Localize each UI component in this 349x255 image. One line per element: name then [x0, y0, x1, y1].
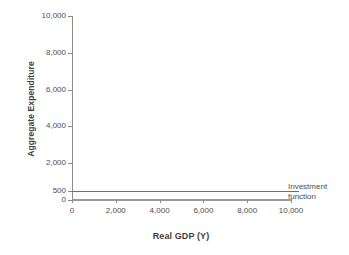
y-tick-label: 2,000	[46, 159, 66, 167]
x-tick-mark	[72, 199, 73, 203]
y-tick-mark	[68, 90, 72, 91]
y-tick-mark	[68, 126, 72, 127]
x-tick-label: 4,000	[150, 207, 170, 215]
x-tick-label: 0	[70, 207, 74, 215]
x-tick-mark	[116, 199, 117, 203]
y-tick-label: 500	[53, 187, 66, 195]
x-tick-label: 2,000	[106, 207, 126, 215]
plot-area: 05002,0004,0006,0008,00010,000 02,0004,0…	[72, 16, 291, 200]
y-axis-line	[72, 16, 73, 200]
y-tick-mark	[68, 16, 72, 17]
y-tick-mark	[68, 53, 72, 54]
x-tick-mark	[203, 199, 204, 203]
y-tick-mark	[68, 163, 72, 164]
x-axis-line	[72, 199, 291, 201]
investment-function-series-line	[72, 191, 299, 192]
y-tick-label: 0	[62, 196, 66, 204]
y-tick-label: 10,000	[42, 12, 66, 20]
x-tick-label: 6,000	[193, 207, 213, 215]
x-tick-mark	[247, 199, 248, 203]
investment-function-chart: Aggregate Expenditure 05002,0004,0006,00…	[0, 0, 349, 255]
y-tick-label: 8,000	[46, 49, 66, 57]
x-tick-label: 10,000	[279, 207, 303, 215]
y-tick-label: 6,000	[46, 86, 66, 94]
x-tick-mark	[160, 199, 161, 203]
x-axis-title: Real GDP (Y)	[72, 231, 290, 241]
investment-function-label-line2: function	[288, 192, 327, 202]
y-tick-label: 4,000	[46, 122, 66, 130]
investment-function-label-line1: Investment	[288, 182, 327, 192]
investment-function-label: Investment function	[288, 182, 327, 202]
y-axis-title: Aggregate Expenditure	[26, 24, 36, 194]
x-tick-label: 8,000	[237, 207, 257, 215]
